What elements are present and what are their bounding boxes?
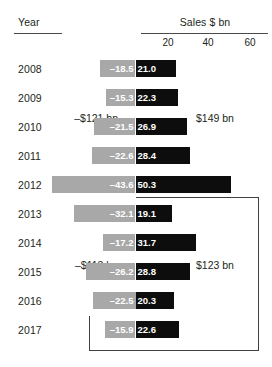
positive-value-2009: 22.3 xyxy=(138,92,181,103)
chart-row-2012: 2012 –43.6 50.3 xyxy=(0,176,272,193)
row-label-2017: 2017 xyxy=(18,324,42,336)
chart-row-2010: 2010 –21.5 26.9 xyxy=(0,118,272,135)
positive-value-2013: 19.1 xyxy=(138,208,174,219)
negative-value-2009: –15.3 xyxy=(106,92,133,103)
positive-value-2012: 50.3 xyxy=(138,179,234,190)
year-header-rule xyxy=(14,33,62,34)
negative-value-2013: –32.1 xyxy=(74,208,133,219)
row-label-2011: 2011 xyxy=(18,150,41,162)
negative-value-2017: –15.9 xyxy=(105,324,133,335)
chart-row-2011: 2011 –22.6 28.4 xyxy=(0,147,272,164)
chart-row-2008: 2008 –18.5 21.0 xyxy=(0,60,272,77)
positive-value-2015: 28.8 xyxy=(138,266,193,277)
positive-value-2008: 21.0 xyxy=(138,63,178,74)
row-label-2016: 2016 xyxy=(18,295,42,307)
negative-value-2016: –22.5 xyxy=(93,295,134,306)
negative-value-2014: –17.2 xyxy=(103,237,134,248)
row-label-2012: 2012 xyxy=(18,179,42,191)
chart-row-2009: 2009 –15.3 22.3 xyxy=(0,89,272,106)
sales-header-rule xyxy=(141,33,268,34)
chart-row-2016: 2016 –22.5 20.3 xyxy=(0,292,272,309)
negative-value-2008: –18.5 xyxy=(100,63,133,74)
negative-value-2015: –26.2 xyxy=(86,266,134,277)
column-header-sales: Sales $ bn xyxy=(140,16,270,28)
chart-row-2014: 2014 –17.2 31.7 xyxy=(0,234,272,251)
row-label-2013: 2013 xyxy=(18,208,42,220)
axis-tick-20: 20 xyxy=(153,37,183,48)
negative-value-2011: –22.6 xyxy=(92,150,133,161)
positive-value-2016: 20.3 xyxy=(138,295,177,306)
chart-row-2013: 2013 –32.1 19.1 xyxy=(0,205,272,222)
axis-tick-40: 40 xyxy=(193,37,223,48)
positive-value-2014: 31.7 xyxy=(138,237,198,248)
diverging-bar-chart: Year Sales $ bn 20 40 60 –$121 bn $149 b… xyxy=(0,0,272,367)
row-label-2008: 2008 xyxy=(18,63,42,75)
chart-row-2015: 2015 –26.2 28.8 xyxy=(0,263,272,280)
row-label-2010: 2010 xyxy=(18,121,42,133)
positive-value-2011: 28.4 xyxy=(138,150,192,161)
row-label-2014: 2014 xyxy=(18,237,42,249)
negative-value-2010: –21.5 xyxy=(94,121,133,132)
chart-row-2017: 2017 –15.9 22.6 xyxy=(0,321,272,338)
positive-value-2010: 26.9 xyxy=(138,121,189,132)
column-header-year: Year xyxy=(18,16,40,28)
row-label-2015: 2015 xyxy=(18,266,42,278)
negative-value-2012: –43.6 xyxy=(52,179,133,190)
positive-value-2017: 22.6 xyxy=(138,324,181,335)
row-label-2009: 2009 xyxy=(18,92,42,104)
axis-tick-60: 60 xyxy=(235,37,265,48)
